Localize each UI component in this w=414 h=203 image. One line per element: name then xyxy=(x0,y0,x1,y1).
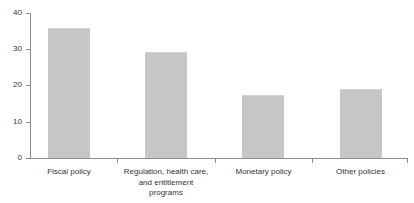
x-label-line: Regulation, health care, xyxy=(110,167,222,178)
x-label-regulation-health-care-entitlement-programs: Regulation, health care, and entitlement… xyxy=(110,167,222,199)
x-axis-line xyxy=(30,158,408,159)
x-tick-2 xyxy=(215,159,216,163)
bar-fiscal-policy xyxy=(48,28,90,159)
y-tick-40 xyxy=(26,13,30,14)
x-label-line: Monetary policy xyxy=(215,167,312,178)
x-label-monetary-policy: Monetary policy xyxy=(215,167,312,178)
y-tick-30 xyxy=(26,49,30,50)
y-tick-label-0: 0 xyxy=(0,154,22,162)
x-label-line: Fiscal policy xyxy=(21,167,117,178)
y-axis-line xyxy=(30,13,31,159)
x-tick-4 xyxy=(407,159,408,163)
y-tick-20 xyxy=(26,85,30,86)
x-tick-3 xyxy=(312,159,313,163)
x-label-line: and entitlement xyxy=(110,178,222,189)
bar-monetary-policy xyxy=(242,95,284,159)
y-tick-label-40: 40 xyxy=(0,9,22,17)
bar-regulation-health-care-entitlement-programs xyxy=(145,52,187,159)
x-label-other-policies: Other policies xyxy=(313,167,408,178)
x-label-fiscal-policy: Fiscal policy xyxy=(21,167,117,178)
x-label-line: Other policies xyxy=(313,167,408,178)
y-tick-label-10: 10 xyxy=(0,118,22,126)
bar-other-policies xyxy=(340,89,382,159)
y-tick-label-30: 30 xyxy=(0,45,22,53)
x-tick-1 xyxy=(117,159,118,163)
x-label-line: programs xyxy=(110,188,222,199)
y-tick-label-20: 20 xyxy=(0,81,22,89)
y-tick-10 xyxy=(26,122,30,123)
bar-chart: 40 30 20 10 0 Fiscal policy Regulation, … xyxy=(0,0,414,203)
